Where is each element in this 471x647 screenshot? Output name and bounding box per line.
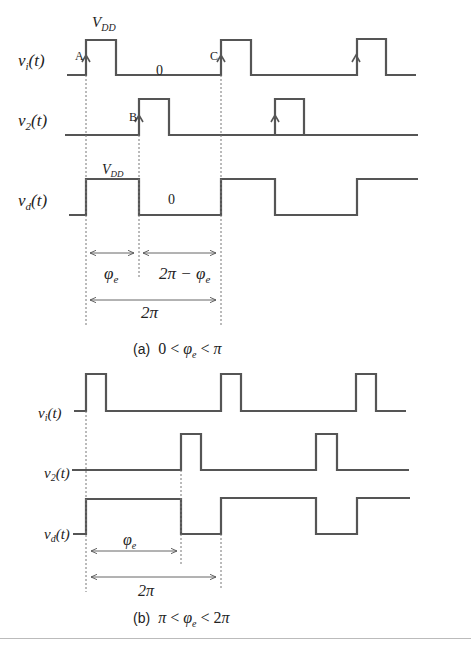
point-b-label: B xyxy=(129,110,137,124)
part-a: vi(t) v2(t) vd(t) VDD 0 A B C VDD 0 φe xyxy=(18,14,418,360)
vd-label-a: vd(t) xyxy=(18,191,47,212)
part-b: vi(t) v2(t) vd(t) φe 2π (b)π < φe < 2π xyxy=(38,374,410,629)
point-a-label: A xyxy=(75,49,84,63)
v1-label-b: vi(t) xyxy=(38,405,62,423)
v2-waveform-b xyxy=(72,434,409,470)
timing-diagram: vi(t) v2(t) vd(t) VDD 0 A B C VDD 0 φe xyxy=(0,0,471,647)
vd-label-b: vd(t) xyxy=(44,526,70,544)
v2-pulse-2-a xyxy=(275,99,304,135)
v1-waveform-b xyxy=(74,374,406,411)
zero-label-top: 0 xyxy=(156,63,163,78)
vd-waveform-b xyxy=(73,498,410,534)
v2-label-b: v2(t) xyxy=(44,465,70,483)
caption-a: (a)0 < φe < π xyxy=(133,340,223,360)
two-pi-label-a: 2π xyxy=(141,303,159,322)
phi-e-label-a: φe xyxy=(104,264,118,285)
v2-waveform-a xyxy=(65,99,418,135)
two-pi-minus-phi-label: 2π − φe xyxy=(159,264,210,285)
vdd-label-top: VDD xyxy=(92,14,116,33)
vdd-label-mid: VDD xyxy=(102,162,124,179)
v2-label-a: v2(t) xyxy=(18,111,47,132)
v1-label-a: vi(t) xyxy=(18,51,45,72)
two-pi-label-b: 2π xyxy=(138,582,155,599)
caption-b: (b)π < φe < 2π xyxy=(133,609,231,629)
vd-waveform-a xyxy=(69,179,418,215)
v1-waveform-a xyxy=(67,39,416,75)
point-c-label: C xyxy=(210,49,218,63)
zero-label-mid: 0 xyxy=(168,192,175,207)
phi-e-label-b: φe xyxy=(123,531,137,551)
page-divider xyxy=(0,638,471,639)
